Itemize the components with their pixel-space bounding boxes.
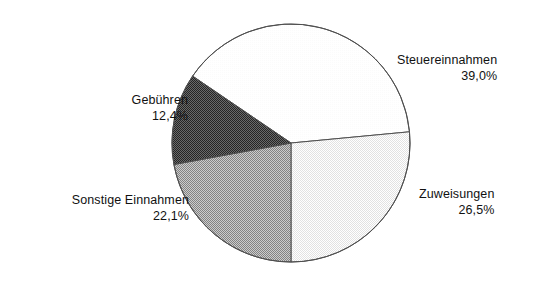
pie-label-steuereinnahmen-name: Steuereinnahmen bbox=[397, 52, 497, 68]
pie-chart-canvas bbox=[0, 0, 553, 284]
pie-label-zuweisungen: Zuweisungen 26,5% bbox=[419, 186, 494, 218]
pie-label-zuweisungen-value: 26,5% bbox=[419, 202, 494, 218]
pie-label-sonstige-einnahmen-value: 22,1% bbox=[26, 208, 189, 224]
pie-label-steuereinnahmen-value: 39,0% bbox=[397, 68, 497, 84]
pie-slice-zuweisungen[interactable] bbox=[291, 132, 410, 262]
pie-label-gebuehren-name: Gebühren bbox=[96, 92, 188, 108]
pie-chart-figure: Steuereinnahmen 39,0% Zuweisungen 26,5% … bbox=[0, 0, 553, 284]
pie-label-sonstige-einnahmen: Sonstige Einnahmen 22,1% bbox=[26, 192, 189, 224]
pie-label-zuweisungen-name: Zuweisungen bbox=[419, 186, 494, 202]
pie-label-steuereinnahmen: Steuereinnahmen 39,0% bbox=[397, 52, 497, 84]
pie-label-gebuehren: Gebühren 12,4% bbox=[96, 92, 188, 124]
pie-label-gebuehren-value: 12,4% bbox=[96, 108, 188, 124]
pie-label-sonstige-einnahmen-name: Sonstige Einnahmen bbox=[26, 192, 189, 208]
